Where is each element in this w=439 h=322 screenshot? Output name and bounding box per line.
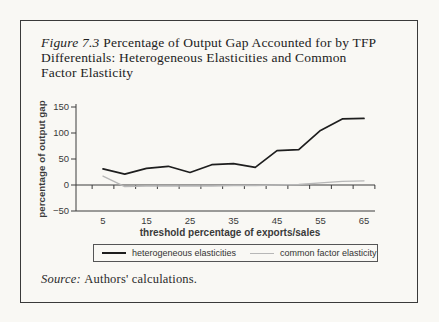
y-tick-label: 150 — [53, 101, 69, 112]
x-tick-label: 45 — [272, 215, 283, 226]
x-tick-label: 25 — [185, 215, 196, 226]
source-label: Source: — [41, 272, 81, 286]
legend-label-heterogeneous: heterogeneous elasticities — [132, 248, 236, 258]
legend-item-heterogeneous: heterogeneous elasticities — [102, 248, 236, 258]
x-tick-label: 55 — [315, 215, 326, 226]
heterogeneous-line-swatch — [102, 252, 126, 254]
legend-item-common-factor: common factor elasticity — [250, 248, 377, 258]
x-tick-label: 65 — [359, 215, 370, 226]
common-factor-line-swatch — [250, 253, 274, 254]
legend-label-common-factor: common factor elasticity — [280, 248, 377, 258]
x-tick-label: 5 — [100, 215, 105, 226]
source-text: Authors' calculations. — [84, 272, 197, 286]
series-line-heterogeneous-elasticities — [103, 118, 364, 174]
y-tick-label: 50 — [58, 153, 69, 164]
source-note: Source:Authors' calculations. — [41, 272, 197, 287]
y-axis-title: percentage of output gap — [36, 100, 47, 218]
y-tick-label: 0 — [64, 179, 69, 190]
x-axis-title: threshold percentage of exports/sales — [140, 227, 321, 238]
x-tick-label: 15 — [141, 215, 152, 226]
y-tick-label: 100 — [53, 127, 69, 138]
x-tick-label: 35 — [228, 215, 239, 226]
chart-legend: heterogeneous elasticities common factor… — [93, 244, 378, 262]
y-tick-label: −50 — [53, 205, 69, 216]
